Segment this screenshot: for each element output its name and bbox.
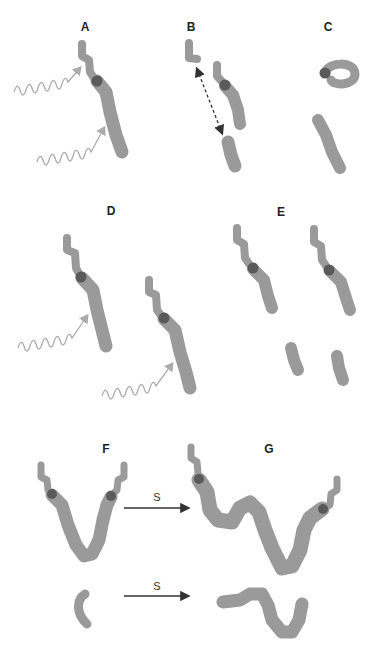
panel-a-wavy-arrow-top xyxy=(14,68,80,95)
panel-d-centromere-2 xyxy=(159,313,170,324)
panel-g-centromere-left xyxy=(194,474,204,484)
panel-d-wavy-arrow-2 xyxy=(102,364,172,399)
panel-e-fragment-1 xyxy=(291,348,298,370)
panel-f-dicentric-chromosome xyxy=(41,465,124,556)
panel-g-chromosome xyxy=(191,447,337,568)
panel-c-acentric-fragment xyxy=(318,120,340,168)
panel-d-chromosome-1 xyxy=(67,238,106,346)
panel-label-f: F xyxy=(102,442,109,456)
panel-f-centromere-left xyxy=(47,489,57,499)
panel-d-wavy-arrow-1 xyxy=(18,316,87,351)
panel-label-d: D xyxy=(107,204,116,218)
chromosome-diagram xyxy=(0,0,373,648)
panel-d-chromosome-2 xyxy=(149,280,190,388)
arrow-label-s-bottom: S xyxy=(153,580,160,592)
panel-a-centromere xyxy=(92,76,103,87)
panel-a-chromosome xyxy=(82,44,122,152)
panel-label-a: A xyxy=(81,20,90,34)
panel-label-g: G xyxy=(264,442,273,456)
bottom-fragment-right xyxy=(223,594,302,632)
panel-c-ring-chromosome xyxy=(320,64,356,84)
panel-a-wavy-arrow-bottom xyxy=(37,128,104,165)
bottom-fragment-left xyxy=(78,594,87,624)
panel-b-centromere xyxy=(220,80,231,91)
panel-b-chromosome xyxy=(189,43,240,166)
panel-e-fragment-2 xyxy=(337,356,343,380)
panel-e-centromere-1 xyxy=(248,263,259,274)
panel-e-centromere-2 xyxy=(324,265,335,276)
panel-g-centromere-right xyxy=(318,504,328,514)
panel-label-b: B xyxy=(187,20,196,34)
panel-label-e: E xyxy=(277,205,285,219)
arrow-label-s-top: S xyxy=(153,491,160,503)
panel-label-c: C xyxy=(324,20,333,34)
panel-d-centromere-1 xyxy=(76,272,87,283)
panel-f-centromere-right xyxy=(106,491,116,501)
